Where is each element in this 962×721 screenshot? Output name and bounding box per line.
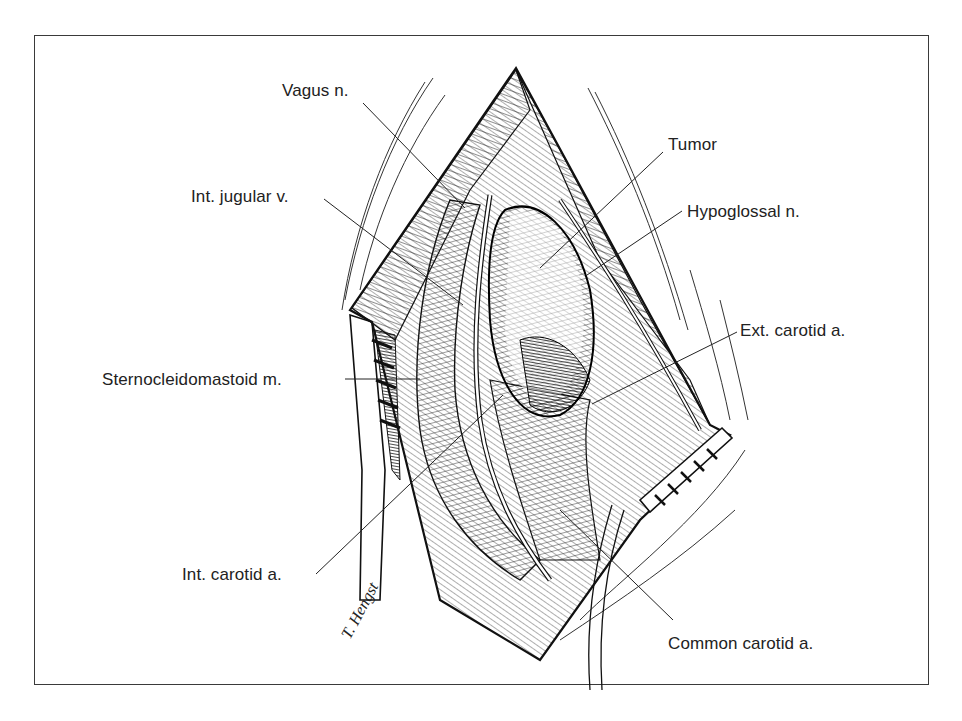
label-tumor: Tumor (668, 136, 717, 153)
label-hypoglossal-nerve: Hypoglossal n. (687, 203, 800, 220)
label-common-carotid-artery: Common carotid a. (668, 635, 813, 652)
anatomical-illustration: T. Hengst (0, 0, 962, 721)
label-sternocleidomastoid: Sternocleidomastoid m. (102, 371, 282, 388)
label-internal-carotid-artery: Int. carotid a. (182, 566, 282, 583)
label-external-carotid-artery: Ext. carotid a. (740, 322, 845, 339)
label-vagus-nerve: Vagus n. (282, 82, 349, 99)
label-internal-jugular-vein: Int. jugular v. (191, 188, 289, 205)
